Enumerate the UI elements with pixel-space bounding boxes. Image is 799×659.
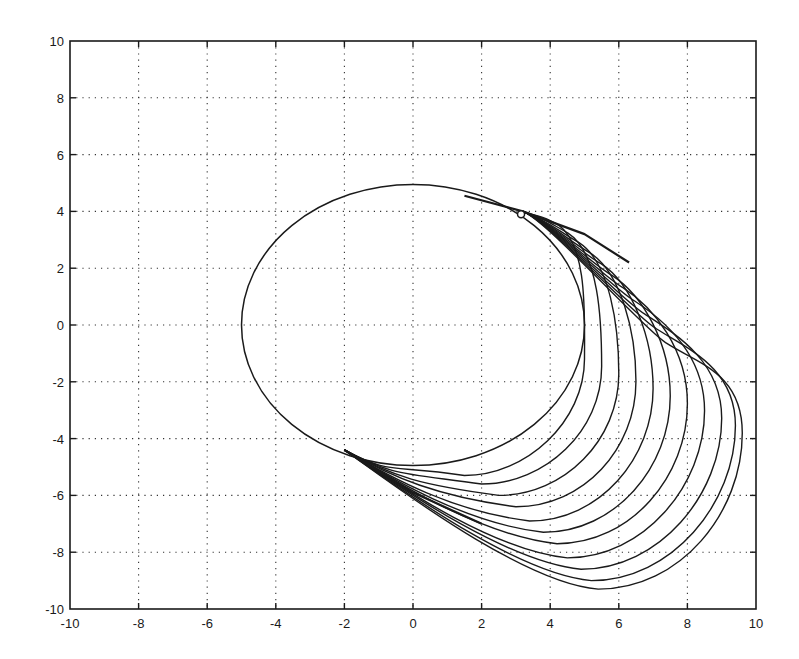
y-tick-label: 4 (57, 204, 64, 219)
y-tick-label: 8 (57, 91, 64, 106)
x-tick-label: 4 (547, 616, 554, 631)
y-tick-label: -4 (52, 432, 64, 447)
y-tick-label: -2 (52, 375, 64, 390)
trajectory-curve (344, 211, 735, 580)
y-tick-labels: -10-8-6-4-20246810 (45, 34, 64, 617)
x-tick-label: -10 (61, 616, 80, 631)
y-tick-label: 6 (57, 148, 64, 163)
initial-ellipse (242, 184, 585, 465)
y-tick-label: 2 (57, 261, 64, 276)
x-tick-label: -6 (201, 616, 213, 631)
x-tick-labels: -10-8-6-4-20246810 (61, 616, 764, 631)
x-tick-label: -2 (339, 616, 351, 631)
chart: -10-8-6-4-20246810 -10-8-6-4-20246810 (0, 0, 799, 659)
x-tick-label: 6 (615, 616, 622, 631)
x-tick-label: 2 (478, 616, 485, 631)
trajectory-curve (344, 211, 584, 475)
start-marker (518, 211, 525, 218)
x-tick-label: 10 (749, 616, 763, 631)
x-tick-label: 0 (409, 616, 416, 631)
y-tick-label: -6 (52, 488, 64, 503)
trajectory-curve (344, 211, 601, 484)
x-tick-label: 8 (684, 616, 691, 631)
trajectory-curves (242, 184, 743, 589)
x-tick-label: -4 (270, 616, 282, 631)
trajectory-curve (344, 211, 721, 569)
y-tick-label: 10 (50, 34, 64, 49)
y-tick-label: 0 (57, 318, 64, 333)
y-tick-label: -10 (45, 602, 64, 617)
x-tick-label: -8 (133, 616, 145, 631)
y-tick-label: -8 (52, 545, 64, 560)
